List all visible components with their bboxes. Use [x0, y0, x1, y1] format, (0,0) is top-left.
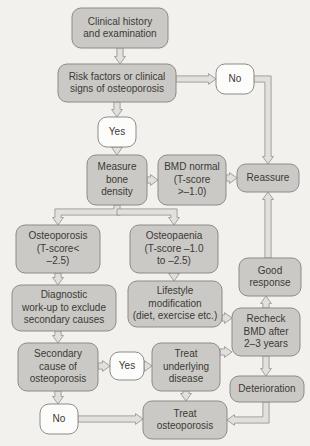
node-label-line: Deterioration: [238, 383, 295, 394]
node-label-line: Treat: [175, 348, 198, 359]
connector-treat-underlying-to-recheck: [220, 347, 232, 358]
node-label-line: modification: [148, 298, 201, 309]
connector-measure-to-osteoporosis: [53, 205, 121, 225]
node-label-line: –2.5): [47, 255, 70, 266]
node-label-line: osteoporosis: [157, 420, 214, 431]
node-label-line: Clinical history: [88, 16, 152, 27]
node-treat-osteoporosis[interactable]: Treatosteoporosis: [143, 401, 227, 439]
flowchart-svg: Clinical historyand examinationRisk fact…: [0, 0, 310, 446]
node-osteopaenia[interactable]: Osteopaenia(T-score –1.0to –2.5): [130, 225, 218, 273]
connector-deterioration-to-treat-osteo: [227, 402, 269, 425]
connector-yes-to-measure: [112, 147, 123, 155]
node-label-line: BMD normal: [164, 161, 220, 172]
connector-no-to-reassure: [254, 76, 273, 164]
node-yes-bottom[interactable]: Yes: [110, 352, 144, 380]
node-recheck-bmd[interactable]: RecheckBMD after2–3 years: [232, 308, 300, 356]
node-label-line: signs of osteoporosis: [70, 83, 164, 94]
node-label-line: 2–3 years: [244, 338, 288, 349]
node-reassure[interactable]: Reassure: [237, 164, 299, 192]
node-treat-underlying[interactable]: Treatunderlyingdisease: [152, 343, 220, 391]
node-label-line: BMD after: [243, 326, 289, 337]
connector-risk-factors-to-yes: [112, 102, 123, 117]
node-label-line: osteoporosis: [30, 373, 87, 384]
node-no-top[interactable]: No: [216, 64, 254, 94]
connector-treat-underlying-to-treat-osteo: [181, 391, 192, 401]
node-label-line: response: [249, 277, 291, 288]
node-label-line: Diagnostic: [41, 289, 88, 300]
connector-bmd-normal-to-reassure: [226, 173, 237, 184]
connector-recheck-to-good-response: [261, 296, 272, 308]
node-label-line: (diet, exercise etc.): [133, 310, 217, 321]
node-label-line: work-up to exclude: [21, 302, 106, 313]
node-label-line: Reassure: [247, 172, 290, 183]
connector-diagnostic-to-secondary: [53, 331, 64, 343]
connector-osteoporosis-to-diagnostic: [53, 273, 64, 285]
node-label-line: Yes: [119, 360, 135, 371]
node-label-line: Osteopaenia: [146, 230, 203, 241]
node-label-line: and examination: [83, 28, 156, 39]
node-label-line: No: [229, 73, 242, 84]
node-label-line: Lifestyle: [157, 285, 194, 296]
node-label-line: Good: [258, 265, 282, 276]
node-bmd-normal[interactable]: BMD normal(T-score>–1.0): [158, 155, 226, 205]
node-label-line: >–1.0): [178, 186, 207, 197]
node-label-line: Secondary: [34, 348, 82, 359]
node-label-line: Yes: [109, 126, 125, 137]
node-label-line: (T-score: [174, 174, 211, 185]
node-diagnostic-workup[interactable]: Diagnosticwork-up to excludesecondary ca…: [12, 285, 116, 331]
node-label-line: Measure: [98, 161, 137, 172]
node-label-line: (T-score<: [37, 243, 80, 254]
node-good-response[interactable]: Goodresponse: [239, 258, 301, 296]
connector-recheck-to-deterioration: [261, 356, 272, 376]
connector-risk-factors-to-no: [176, 74, 216, 85]
node-deterioration[interactable]: Deterioration: [230, 376, 304, 402]
node-label-line: Osteoporosis: [29, 230, 88, 241]
node-label-line: to –2.5): [157, 255, 191, 266]
connector-osteopaenia-to-lifestyle: [169, 273, 180, 281]
flowchart-container: Clinical historyand examinationRisk fact…: [0, 0, 310, 446]
connector-clinical-history-to-risk-factors: [115, 48, 126, 64]
node-layer: Clinical historyand examinationRisk fact…: [12, 8, 304, 439]
node-label-line: secondary causes: [24, 314, 105, 325]
node-clinical-history[interactable]: Clinical historyand examination: [72, 8, 168, 48]
node-no-bottom[interactable]: No: [40, 404, 78, 434]
node-label-line: No: [53, 413, 66, 424]
connector-no-to-treat-osteoporosis: [78, 414, 143, 425]
node-secondary-cause[interactable]: Secondarycause ofosteoporosis: [18, 343, 98, 391]
node-label-line: underlying: [163, 361, 209, 372]
node-osteoporosis[interactable]: Osteoporosis(T-score<–2.5): [16, 225, 100, 273]
connector-secondary-to-no: [53, 391, 64, 404]
node-yes-top[interactable]: Yes: [98, 117, 136, 147]
node-label-line: bone: [106, 174, 129, 185]
node-risk-factors[interactable]: Risk factors or clinicalsigns of osteopo…: [58, 64, 176, 102]
connector-good-response-to-reassure: [263, 192, 274, 258]
connector-secondary-to-yes: [98, 361, 110, 372]
node-label-line: Treat: [174, 408, 197, 419]
connector-yes-to-treat-underlying: [144, 361, 152, 372]
node-label-line: density: [101, 186, 133, 197]
node-label-line: cause of: [39, 361, 77, 372]
node-label-line: Risk factors or clinical: [69, 71, 166, 82]
connector-measure-to-bmd-normal: [147, 175, 158, 186]
node-label-line: (T-score –1.0: [145, 243, 204, 254]
connector-measure-to-osteopaenia: [117, 209, 179, 225]
connector-lifestyle-to-recheck: [222, 313, 232, 324]
node-label-line: disease: [169, 373, 204, 384]
node-lifestyle-modification[interactable]: Lifestylemodification(diet, exercise etc…: [128, 281, 222, 327]
node-label-line: Recheck: [247, 313, 287, 324]
node-measure-bone-density[interactable]: Measurebonedensity: [87, 155, 147, 205]
